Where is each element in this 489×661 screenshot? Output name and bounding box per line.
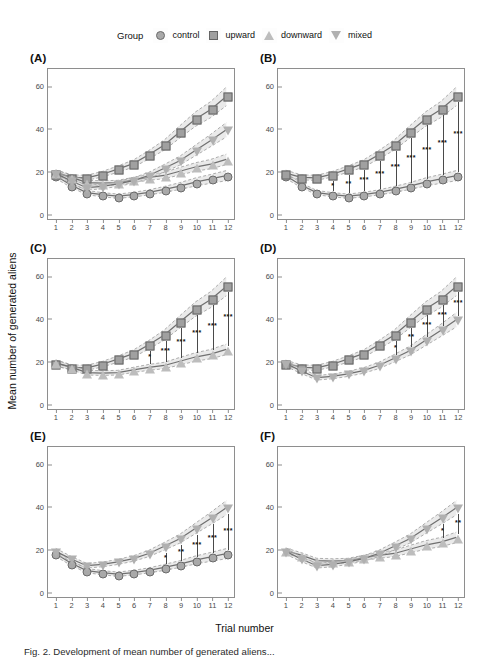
figure-caption: Fig. 2. Development of mean number of ge… xyxy=(24,646,484,657)
x-axis-tick: 2 xyxy=(299,219,303,232)
x-axis-tick: 4 xyxy=(101,597,105,610)
data-point-control xyxy=(177,561,186,570)
data-point-upward xyxy=(224,92,233,101)
y-axis-tick: 0 xyxy=(270,210,278,219)
x-axis-tick: 1 xyxy=(54,597,58,610)
data-point-downward xyxy=(208,351,218,360)
data-point-upward xyxy=(145,341,154,350)
x-axis-tick: 9 xyxy=(409,597,413,610)
data-point-upward xyxy=(391,332,400,341)
x-axis-tick: 7 xyxy=(378,219,382,232)
figure-root: Group control upward downward mixed Mean… xyxy=(0,0,489,661)
data-point-mixed xyxy=(406,535,416,544)
y-axis-tick: 60 xyxy=(36,82,48,91)
data-point-mixed xyxy=(312,375,322,384)
significance-stars: *** xyxy=(422,321,431,328)
x-axis-tick: 11 xyxy=(209,409,217,422)
x-axis-title: Trial number xyxy=(0,622,489,634)
x-axis-tick: 4 xyxy=(331,219,335,232)
data-point-downward xyxy=(161,362,171,371)
x-axis-tick: 2 xyxy=(299,597,303,610)
plot-area: 0204060123456789101112 xyxy=(47,68,235,220)
x-axis-tick: 3 xyxy=(315,597,319,610)
plot-area: 0204060123456789101112************ xyxy=(277,258,465,410)
significance-stars: *** xyxy=(453,129,462,136)
x-axis-tick: 12 xyxy=(224,219,232,232)
x-axis-tick: 2 xyxy=(69,219,73,232)
data-point-control xyxy=(328,192,337,201)
y-axis-tick: 60 xyxy=(36,460,48,469)
x-axis-tick: 12 xyxy=(454,409,462,422)
x-axis-tick: 10 xyxy=(193,219,201,232)
data-point-upward xyxy=(438,106,447,115)
x-axis-tick: 10 xyxy=(423,409,431,422)
x-axis-tick: 10 xyxy=(193,597,201,610)
x-axis-tick: 2 xyxy=(299,409,303,422)
data-point-mixed xyxy=(297,368,307,377)
data-point-mixed xyxy=(281,548,291,557)
panel-label: (A) xyxy=(30,52,47,64)
x-axis-tick: 11 xyxy=(439,597,447,610)
legend-label-control: control xyxy=(172,30,199,40)
data-point-upward xyxy=(130,160,139,169)
triangle-up-icon xyxy=(262,28,277,43)
legend-item-upward[interactable]: upward xyxy=(206,28,255,43)
data-point-upward xyxy=(130,350,139,359)
panel-label: (E) xyxy=(30,430,46,442)
x-axis-tick: 3 xyxy=(315,409,319,422)
significance-stars: *** xyxy=(359,176,368,183)
data-point-mixed xyxy=(223,126,233,135)
data-point-mixed xyxy=(145,550,155,559)
data-point-mixed xyxy=(375,362,385,371)
data-point-control xyxy=(130,192,139,201)
series-canvas xyxy=(48,69,234,219)
x-axis-tick: 6 xyxy=(362,409,366,422)
significance-stars: * xyxy=(148,353,151,360)
plot-area: 0204060123456789101112**************** xyxy=(47,258,235,410)
data-point-mixed xyxy=(208,515,218,524)
data-point-control xyxy=(360,192,369,201)
legend-item-downward[interactable]: downward xyxy=(262,28,322,43)
x-axis-tick: 6 xyxy=(132,597,136,610)
legend-item-control[interactable]: control xyxy=(153,28,199,43)
data-point-control xyxy=(224,551,233,560)
panel-a: (A)0204060123456789101112 xyxy=(18,52,240,240)
data-point-control xyxy=(438,176,447,185)
x-axis-tick: 6 xyxy=(132,409,136,422)
data-point-mixed xyxy=(192,147,202,156)
data-point-upward xyxy=(407,318,416,327)
x-axis-tick: 1 xyxy=(54,219,58,232)
data-point-control xyxy=(161,565,170,574)
x-axis-tick: 7 xyxy=(378,409,382,422)
data-point-upward xyxy=(422,115,431,124)
legend: Group control upward downward mixed xyxy=(0,24,489,46)
legend-label-upward: upward xyxy=(225,30,255,40)
significance-stars: *** xyxy=(208,533,217,540)
x-axis-tick: 2 xyxy=(69,597,73,610)
data-point-mixed xyxy=(391,355,401,364)
x-axis-tick: 5 xyxy=(346,597,350,610)
x-axis-tick: 9 xyxy=(179,219,183,232)
x-axis-tick: 3 xyxy=(85,219,89,232)
data-point-upward xyxy=(375,341,384,350)
y-axis-tick: 40 xyxy=(36,124,48,133)
data-point-mixed xyxy=(67,556,77,565)
data-point-upward xyxy=(313,175,322,184)
data-point-mixed xyxy=(67,178,77,187)
data-point-control xyxy=(375,190,384,199)
x-axis-tick: 8 xyxy=(393,219,397,232)
significance-stars: *** xyxy=(192,328,201,335)
significance-stars: *** xyxy=(223,526,232,533)
significance-stars: *** xyxy=(453,299,462,306)
x-axis-tick: 7 xyxy=(148,409,152,422)
x-axis-tick: 5 xyxy=(346,219,350,232)
x-axis-tick: 8 xyxy=(393,597,397,610)
y-axis-tick: 0 xyxy=(270,400,278,409)
legend-item-mixed[interactable]: mixed xyxy=(329,28,372,43)
data-point-upward xyxy=(297,174,306,183)
data-point-upward xyxy=(422,305,431,314)
significance-stars: *** xyxy=(391,163,400,170)
panel-f: (F)0204060123456789101112*** xyxy=(248,430,470,618)
y-axis-tick: 20 xyxy=(266,357,278,366)
x-axis-tick: 2 xyxy=(69,409,73,422)
